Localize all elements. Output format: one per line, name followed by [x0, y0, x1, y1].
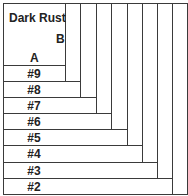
- corner-label-b: B: [56, 31, 65, 47]
- row-label-4: #4: [3, 146, 65, 162]
- row-label-7: #7: [3, 98, 65, 114]
- col-line-6: [111, 3, 112, 130]
- row-label-5: #5: [3, 130, 65, 146]
- col-line-5: [127, 3, 128, 146]
- corner-label-a: A: [30, 50, 39, 66]
- row-label-2: #2: [3, 179, 65, 195]
- col-line-8: [80, 3, 81, 98]
- row-label-8: #8: [3, 82, 65, 98]
- row-label-3: #3: [3, 163, 65, 179]
- col-line-4: [142, 3, 143, 163]
- frame-right: [187, 3, 188, 195]
- row-label-9: #9: [3, 66, 65, 82]
- col-line-2: [172, 3, 173, 195]
- col-line-3: [157, 3, 158, 179]
- row-label-6: #6: [3, 114, 65, 130]
- diagram-title: Dark Rust: [9, 10, 66, 26]
